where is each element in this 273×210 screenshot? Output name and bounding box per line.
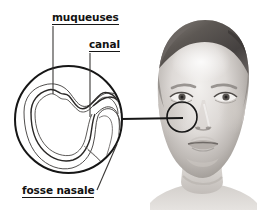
callout-connector-line: [121, 118, 183, 119]
figure-container: muqueuses canal fosse nasale: [0, 0, 273, 210]
label-canal-text: canal: [89, 38, 120, 52]
nose-marker-circle: [167, 102, 197, 132]
label-canal: canal: [89, 39, 120, 50]
label-fosse-nasale: fosse nasale: [22, 185, 94, 196]
label-fosse-nasale-text: fosse nasale: [22, 184, 94, 198]
label-muqueuses: muqueuses: [52, 12, 119, 23]
diagram-layer: [0, 0, 273, 210]
label-muqueuses-text: muqueuses: [52, 11, 119, 25]
